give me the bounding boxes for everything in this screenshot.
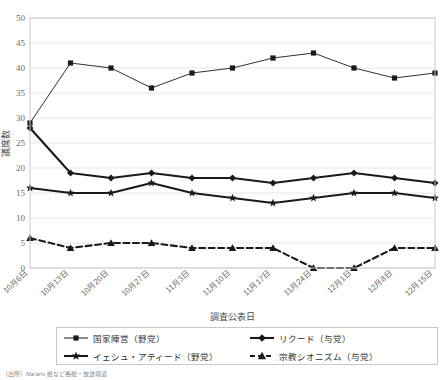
legend-swatch-diamond-icon	[249, 333, 275, 343]
series-2	[27, 125, 439, 187]
x-axis-title: 調査公表日	[210, 311, 255, 322]
y-tick-label: 10	[16, 213, 26, 223]
x-tick-label: 12月1日	[325, 269, 353, 295]
data-point-marker	[311, 50, 316, 55]
legend-label: リクード（与党）	[279, 332, 351, 344]
data-point-marker	[73, 335, 78, 340]
x-tick: 11月10日	[201, 269, 232, 298]
y-tick-label: 40	[16, 63, 26, 73]
data-point-marker	[148, 170, 155, 177]
data-point-marker	[351, 170, 358, 177]
data-point-marker	[108, 65, 113, 70]
data-point-marker	[391, 189, 399, 197]
data-point-marker	[229, 194, 237, 202]
data-point-marker	[229, 175, 236, 182]
y-tick-label: 15	[16, 188, 26, 198]
data-point-marker	[230, 65, 235, 70]
data-point-marker	[67, 189, 75, 197]
legend-item-1[interactable]: 国家陣営（野党）	[63, 329, 249, 347]
x-tick: 11月17日	[242, 269, 273, 298]
source-note: （出所）Ma'ariv 紙など各紙・放送報道	[2, 369, 107, 378]
data-point-marker	[189, 175, 196, 182]
x-tick-label: 10月6日	[1, 269, 29, 295]
y-tick-label: 20	[16, 163, 26, 173]
data-series-layer	[26, 50, 439, 271]
x-tick-label: 11月17日	[242, 269, 273, 298]
y-tick-label: 50	[16, 13, 26, 23]
x-tick-label: 11月24日	[282, 269, 313, 298]
y-tick-label: 30	[16, 113, 26, 123]
data-point-marker	[148, 179, 156, 187]
data-point-marker	[270, 55, 275, 60]
x-tick: 11月24日	[282, 269, 313, 298]
y-tick-label: 25	[16, 138, 26, 148]
legend-label: イェシュ・アティード（野党）	[93, 350, 218, 362]
x-tick-label: 12月8日	[366, 269, 394, 295]
x-axis-ticks: 10月6日10月13日10月20日10月27日11月3日11月10日11月17日…	[1, 269, 434, 298]
legend-item-4[interactable]: 宗教シオニズム（与党）	[249, 347, 435, 365]
x-tick-label: 10月13日	[39, 269, 70, 298]
data-point-marker	[391, 175, 398, 182]
gridlines	[30, 18, 435, 268]
legend-swatch-star-icon	[63, 351, 89, 361]
x-tick: 10月6日	[1, 269, 29, 295]
line-chart-svg: 05101520253035404550 10月6日10月13日10月20日10…	[0, 0, 440, 380]
legend-swatch-triangle-icon	[249, 351, 275, 361]
series-1	[27, 50, 437, 125]
data-point-marker	[392, 75, 397, 80]
x-tick-label: 11月3日	[164, 269, 191, 295]
data-point-marker	[258, 334, 266, 342]
x-tick: 12月8日	[366, 269, 394, 295]
legend-swatch-square-icon	[63, 333, 89, 343]
legend-label: 国家陣営（野党）	[93, 332, 165, 344]
x-tick: 10月13日	[39, 269, 70, 298]
data-point-marker	[391, 244, 399, 251]
chart-legend: 国家陣営（野党）リクード（与党）イェシュ・アティード（野党）宗教シオニズム（与党…	[56, 327, 438, 365]
data-point-marker	[72, 351, 81, 359]
legend-item-3[interactable]: イェシュ・アティード（野党）	[63, 347, 249, 365]
chart-container: 05101520253035404550 10月6日10月13日10月20日10…	[0, 0, 440, 380]
x-tick-label: 10月27日	[120, 269, 151, 298]
legend-label: 宗教シオニズム（与党）	[279, 350, 378, 362]
y-tick-label: 35	[16, 88, 26, 98]
x-tick-label: 12月15日	[403, 269, 434, 298]
y-axis-title: 議席数	[0, 130, 11, 157]
x-tick: 12月15日	[403, 269, 434, 298]
x-tick: 10月20日	[79, 269, 110, 298]
x-tick: 10月27日	[120, 269, 151, 298]
data-point-marker	[270, 180, 277, 187]
x-tick: 12月1日	[325, 269, 353, 295]
y-tick-label: 5	[21, 238, 26, 248]
y-tick-label: 45	[16, 38, 26, 48]
series-4	[26, 234, 439, 271]
x-tick: 11月3日	[164, 269, 191, 295]
x-tick-label: 11月10日	[201, 269, 232, 298]
legend-item-2[interactable]: リクード（与党）	[249, 329, 435, 347]
data-point-marker	[149, 85, 154, 90]
data-point-marker	[188, 189, 196, 197]
data-point-marker	[310, 194, 318, 202]
data-point-marker	[108, 175, 115, 182]
x-tick-label: 10月20日	[79, 269, 110, 298]
series-line	[30, 53, 435, 123]
data-point-marker	[189, 70, 194, 75]
data-point-marker	[350, 189, 358, 197]
data-point-marker	[269, 199, 277, 207]
data-point-marker	[68, 60, 73, 65]
data-point-marker	[310, 175, 317, 182]
data-point-marker	[351, 65, 356, 70]
y-axis-ticks: 05101520253035404550	[16, 13, 26, 273]
data-point-marker	[107, 189, 115, 197]
